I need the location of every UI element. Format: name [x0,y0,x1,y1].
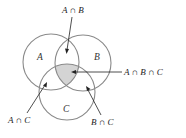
pointer-ac [27,85,45,113]
label-a-intersect-c: A ∩ C [7,115,31,125]
set-label-b: B [94,52,100,62]
circle-a [23,34,79,90]
set-label-c: C [63,104,70,114]
label-a-intersect-b: A ∩ B [61,5,84,15]
venn-diagram: A B C A ∩ B A ∩ B ∩ C A ∩ C B ∩ C [0,0,186,138]
set-label-a: A [36,52,43,62]
circle-b [55,35,111,91]
label-a-intersect-b-intersect-c: A ∩ B ∩ C [123,67,164,77]
arrowhead-ab-icon [65,49,69,55]
pointer-ab [67,17,72,50]
label-b-intersect-c: B ∩ C [91,117,114,127]
